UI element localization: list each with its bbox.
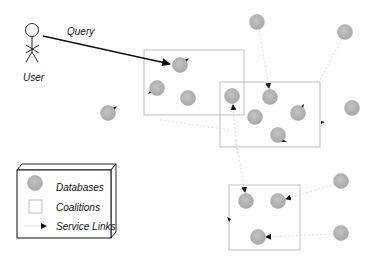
database-circle[interactable] (338, 25, 353, 40)
database-circle[interactable] (181, 91, 196, 106)
legend: Databases Coalitions Service Links (17, 164, 116, 238)
query-label: Query (67, 26, 95, 37)
coalitions (144, 50, 320, 250)
database-circle[interactable] (248, 110, 263, 125)
database-circle[interactable] (263, 90, 278, 105)
database-circle[interactable] (250, 15, 265, 30)
database-circle[interactable] (271, 128, 286, 143)
legend-label-databases: Databases (56, 182, 104, 193)
service-link (286, 184, 335, 199)
database-circle[interactable] (291, 106, 306, 121)
database-circle[interactable] (271, 194, 286, 209)
database-circle[interactable] (225, 89, 240, 104)
database-circle[interactable] (334, 226, 349, 241)
legend-database-icon (28, 176, 43, 191)
database-circle[interactable] (251, 230, 266, 245)
user-label: User (23, 72, 45, 83)
legend-label-coalitions: Coalitions (56, 202, 100, 213)
service-link (236, 140, 245, 192)
database-circle[interactable] (334, 174, 349, 189)
database-circle[interactable] (239, 194, 254, 209)
service-link (320, 39, 342, 80)
databases (101, 15, 360, 245)
database-circle[interactable] (173, 58, 188, 73)
user-icon (26, 24, 40, 63)
database-circle[interactable] (101, 106, 116, 121)
coalition-diagram: User Query Databases Coalitions Service … (0, 0, 372, 261)
legend-label-service-links: Service Links (56, 221, 115, 232)
arrowhead-icon (321, 121, 325, 124)
database-circle[interactable] (345, 101, 360, 116)
database-circle[interactable] (150, 81, 165, 96)
service-link (233, 105, 237, 153)
service-link (259, 30, 269, 88)
